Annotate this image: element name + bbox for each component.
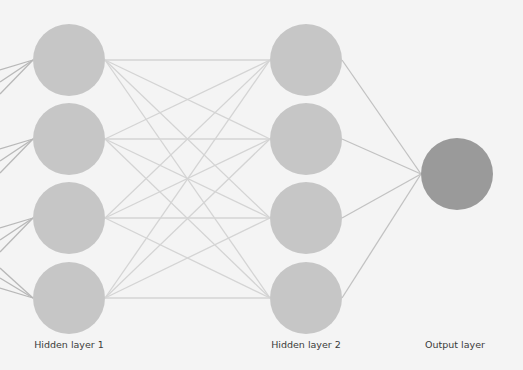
network-graph — [0, 0, 523, 370]
hidden2-node — [270, 262, 342, 334]
hidden1-node — [33, 262, 105, 334]
edge — [0, 60, 33, 82]
hidden1-node — [33, 182, 105, 254]
edge — [0, 218, 33, 240]
hidden-layer-2-label: Hidden layer 2 — [271, 339, 341, 350]
hidden-layer-1-label: Hidden layer 1 — [34, 339, 104, 350]
edge — [342, 174, 421, 298]
edge — [0, 139, 33, 161]
hidden2-node — [270, 24, 342, 96]
output-layer-nodes — [421, 138, 493, 210]
hidden2-node — [270, 103, 342, 175]
output-node — [421, 138, 493, 210]
hidden-layer-1-nodes — [33, 24, 105, 334]
hidden2-node — [270, 182, 342, 254]
hidden-layer-2-nodes — [270, 24, 342, 334]
edge — [0, 278, 33, 298]
neural-network-diagram: Hidden layer 1 Hidden layer 2 Output lay… — [0, 0, 523, 370]
hidden2-to-output-edges — [342, 60, 421, 298]
hidden1-to-hidden2-edges — [105, 60, 270, 298]
hidden1-node — [33, 24, 105, 96]
hidden1-node — [33, 103, 105, 175]
input-edges — [0, 60, 33, 298]
output-layer-label: Output layer — [425, 339, 485, 350]
edge — [342, 174, 421, 218]
